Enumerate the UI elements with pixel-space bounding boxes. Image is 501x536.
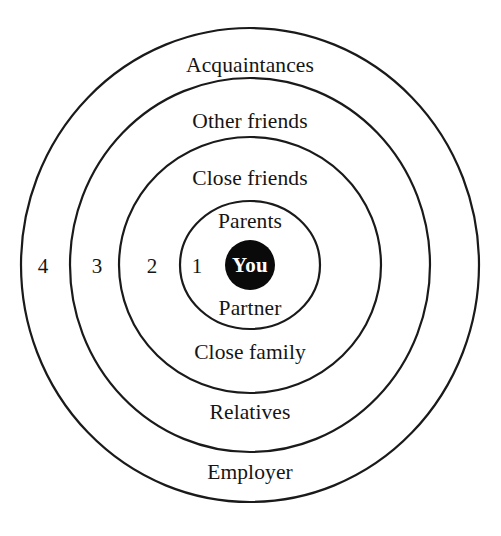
ring-label-relatives: Relatives <box>210 402 291 424</box>
ring-number-3: 3 <box>92 256 103 277</box>
ring-label-close-friends: Close friends <box>192 168 307 190</box>
ring-label-partner: Partner <box>219 298 282 320</box>
ring-label-close-family: Close family <box>194 342 306 364</box>
ring-number-1: 1 <box>192 256 203 277</box>
ring-label-employer: Employer <box>207 462 293 484</box>
center-label-you: You <box>232 255 268 276</box>
ring-label-acquaintances: Acquaintances <box>186 55 314 77</box>
ring-number-2: 2 <box>147 256 158 277</box>
social-circles-diagram: Acquaintances Employer 4 Other friends R… <box>0 0 501 536</box>
ring-label-parents: Parents <box>218 211 282 233</box>
ring-number-4: 4 <box>38 256 49 277</box>
ring-label-other-friends: Other friends <box>192 111 307 133</box>
